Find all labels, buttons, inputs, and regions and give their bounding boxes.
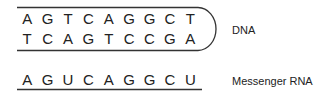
base: C (119, 31, 139, 46)
base: T (17, 31, 37, 46)
base: C (139, 31, 159, 46)
base: A (58, 31, 78, 46)
base: A (180, 31, 200, 46)
base: G (119, 72, 139, 87)
rna-label: Messenger RNA (232, 75, 313, 87)
base: T (58, 11, 78, 26)
dna-top-strand: A G T C A G G C T (17, 11, 201, 26)
base: A (99, 11, 119, 26)
base: A (17, 11, 37, 26)
base: A (17, 72, 37, 87)
base: G (139, 11, 159, 26)
base: G (37, 72, 57, 87)
base: G (139, 72, 159, 87)
base: T (180, 11, 200, 26)
base: C (160, 72, 180, 87)
base: C (160, 11, 180, 26)
base: G (119, 11, 139, 26)
base: G (37, 11, 57, 26)
base: U (180, 72, 200, 87)
base: A (99, 72, 119, 87)
base: C (78, 11, 98, 26)
dna-label: DNA (232, 24, 255, 36)
base: G (160, 31, 180, 46)
dna-bottom-strand: T C A G T C C G A (17, 31, 201, 46)
rna-strand: A G U C A G G C U (17, 72, 201, 87)
base: G (78, 31, 98, 46)
base: C (37, 31, 57, 46)
base: U (58, 72, 78, 87)
base: C (78, 72, 98, 87)
base: T (99, 31, 119, 46)
